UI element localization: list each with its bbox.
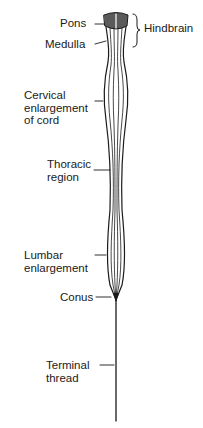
label-terminal-thread: Terminal thread <box>46 359 89 384</box>
label-line: region <box>47 171 91 184</box>
label-line: enlargement <box>24 262 88 275</box>
label-line: Thoracic <box>47 158 91 171</box>
spinal-cord-diagram: Pons Medulla Hindbrain Cervical enlargem… <box>0 0 203 428</box>
label-line: Cervical <box>24 89 88 102</box>
label-medulla: Medulla <box>45 38 85 51</box>
label-line: of cord <box>24 114 88 127</box>
label-cervical-enlargement: Cervical enlargement of cord <box>24 89 88 127</box>
spinal-cord-illustration <box>0 0 203 428</box>
label-lumbar-enlargement: Lumbar enlargement <box>24 249 88 274</box>
label-pons: Pons <box>60 17 86 30</box>
label-line: Terminal <box>46 359 89 372</box>
label-line: thread <box>46 372 89 385</box>
label-line: enlargement <box>24 102 88 115</box>
label-hindbrain: Hindbrain <box>144 22 193 35</box>
label-thoracic-region: Thoracic region <box>47 158 91 183</box>
label-conus: Conus <box>60 291 93 304</box>
label-line: Lumbar <box>24 249 88 262</box>
